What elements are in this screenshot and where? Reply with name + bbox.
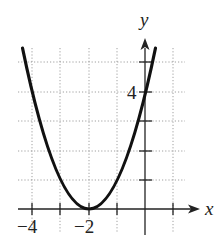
y-tick-label-4: 4 xyxy=(127,82,137,103)
x-axis xyxy=(18,203,200,215)
x-tick-label-neg2: −2 xyxy=(74,216,94,237)
x-tick-label-neg4: −4 xyxy=(17,216,38,237)
y-axis-label: y xyxy=(138,9,149,30)
x-axis-label: x xyxy=(204,198,214,219)
parabola-graph: −4 −2 4 x y xyxy=(0,0,217,245)
